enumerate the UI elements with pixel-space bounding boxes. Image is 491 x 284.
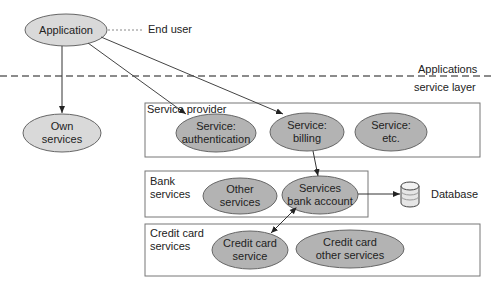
application-label: Application bbox=[39, 24, 93, 37]
credit-card-service-node: Credit cardservice bbox=[212, 231, 288, 269]
cc-other-line2: other services bbox=[316, 249, 384, 262]
layer-label-service-layer: service layer bbox=[414, 81, 476, 94]
bank-services-title: Bank services bbox=[150, 175, 190, 201]
service-billing-node: Service:billing bbox=[270, 113, 344, 151]
billing-line1: Service: bbox=[287, 119, 327, 132]
etc-line2: etc. bbox=[371, 132, 411, 145]
own-services-node: Ownservices bbox=[23, 114, 101, 152]
cc-service-line1: Credit card bbox=[223, 237, 277, 250]
bank-account-line2: bank account bbox=[287, 195, 352, 208]
arrow-billing-to-bank bbox=[313, 151, 318, 176]
other-services-line2: services bbox=[220, 196, 260, 209]
database-icon bbox=[401, 182, 419, 207]
billing-line2: billing bbox=[287, 132, 327, 145]
layer-label-applications: Applications bbox=[418, 63, 477, 76]
etc-line1: Service: bbox=[371, 119, 411, 132]
own-services-line2: services bbox=[42, 133, 82, 146]
other-services-line1: Other bbox=[220, 183, 260, 196]
auth-line2: authentication bbox=[182, 133, 251, 146]
service-etc-node: Service:etc. bbox=[355, 113, 427, 151]
other-services-node: Otherservices bbox=[203, 178, 277, 214]
auth-line1: Service: bbox=[182, 120, 251, 133]
credit-card-services-title: Credit card services bbox=[150, 227, 204, 253]
cc-service-line2: service bbox=[223, 250, 277, 263]
bank-title-line2: services bbox=[150, 188, 190, 201]
cc-other-line1: Credit card bbox=[316, 236, 384, 249]
cc-title-line1: Credit card bbox=[150, 227, 204, 240]
bank-account-line1: Services bbox=[287, 182, 352, 195]
cc-title-line2: services bbox=[150, 240, 204, 253]
own-services-line1: Own bbox=[42, 120, 82, 133]
database-label: Database bbox=[431, 188, 478, 201]
bank-account-node: Servicesbank account bbox=[282, 176, 358, 214]
application-node: Application bbox=[25, 14, 107, 46]
credit-card-other-node: Credit cardother services bbox=[296, 230, 404, 268]
end-user-label: End user bbox=[148, 23, 192, 36]
service-authentication-node: Service:authentication bbox=[176, 114, 256, 152]
bank-title-line1: Bank bbox=[150, 175, 190, 188]
